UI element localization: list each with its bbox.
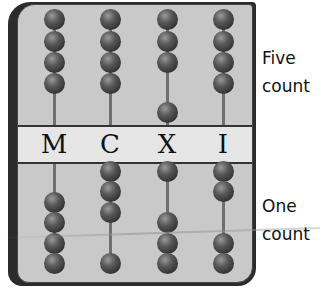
bead-one-counter[interactable] xyxy=(44,212,65,233)
five-label-line1: Five xyxy=(262,44,310,72)
bead-five-counter[interactable] xyxy=(100,52,121,73)
bead-five-counter[interactable] xyxy=(213,31,234,52)
bead-five-counter[interactable] xyxy=(213,9,234,30)
five-counters-label: Five count xyxy=(262,44,310,100)
abacus-panel: MCXI xyxy=(17,4,253,283)
place-letter-m: M xyxy=(39,127,69,162)
bead-one-counter[interactable] xyxy=(157,253,178,274)
bead-one-counter[interactable] xyxy=(100,181,121,202)
place-letter-x: X xyxy=(152,127,182,162)
bead-five-counter[interactable] xyxy=(157,9,178,30)
one-label-line2: count xyxy=(262,220,310,248)
bead-five-counter[interactable] xyxy=(100,9,121,30)
bead-one-counter[interactable] xyxy=(157,212,178,233)
bead-one-counter[interactable] xyxy=(100,253,121,274)
bead-one-counter[interactable] xyxy=(213,161,234,182)
place-value-band: MCXI xyxy=(18,125,252,164)
bead-one-counter[interactable] xyxy=(157,161,178,182)
bead-five-counter[interactable] xyxy=(100,31,121,52)
place-letter-i: I xyxy=(208,127,238,162)
bead-one-counter[interactable] xyxy=(100,202,121,223)
bead-one-counter[interactable] xyxy=(213,233,234,254)
bead-five-counter[interactable] xyxy=(213,73,234,94)
bead-five-counter[interactable] xyxy=(44,52,65,73)
bead-five-counter[interactable] xyxy=(157,31,178,52)
bead-five-counter[interactable] xyxy=(157,102,178,123)
bead-one-counter[interactable] xyxy=(44,192,65,213)
bead-one-counter[interactable] xyxy=(213,181,234,202)
bead-one-counter[interactable] xyxy=(213,253,234,274)
one-label-line1: One xyxy=(262,192,310,220)
five-label-line2: count xyxy=(262,72,310,100)
bead-one-counter[interactable] xyxy=(157,233,178,254)
bead-five-counter[interactable] xyxy=(157,52,178,73)
bead-five-counter[interactable] xyxy=(100,73,121,94)
one-counters-label: One count xyxy=(262,192,310,248)
place-letter-c: C xyxy=(95,127,125,162)
bead-five-counter[interactable] xyxy=(44,31,65,52)
bead-five-counter[interactable] xyxy=(44,9,65,30)
bead-five-counter[interactable] xyxy=(213,52,234,73)
bead-one-counter[interactable] xyxy=(44,253,65,274)
bead-five-counter[interactable] xyxy=(44,73,65,94)
bead-one-counter[interactable] xyxy=(100,161,121,182)
